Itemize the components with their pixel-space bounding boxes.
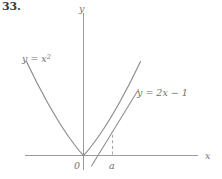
tangent-label: y = 2x − 1 [136,87,188,98]
tangent-line [92,90,139,167]
x-axis-label: x [205,150,211,161]
parabola-label-base: y = x [21,53,47,64]
origin-label: 0 [74,160,80,171]
x-tick-label-a: a [109,160,115,171]
parabola-label-exponent: 2 [46,53,51,61]
figure-container: 33. y x 0 a y = x2 y = 2x − 1 [0,0,222,179]
y-axis-label: y [78,3,85,14]
graph-canvas: y x 0 a y = x2 y = 2x − 1 [0,0,222,179]
parabola-label: y = x2 [21,53,51,64]
